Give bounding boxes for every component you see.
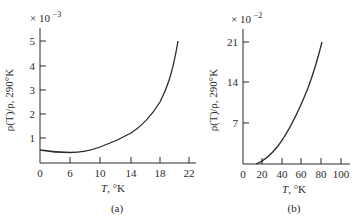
y-tick-label: 21	[227, 36, 238, 48]
x-ticks-b: 0 20 40 60 80 100	[240, 158, 350, 180]
x-tick-label: 18	[155, 167, 167, 179]
caption-a: (a)	[111, 202, 124, 215]
x-ticks-a: 0 6 10 14 18 22	[37, 157, 194, 179]
data-curve-b	[256, 42, 322, 164]
y-multiplier-b: × 10 −2	[231, 11, 262, 25]
data-curve-a	[40, 41, 178, 153]
x-tick-label: 14	[126, 167, 138, 179]
y-ticks-a: 1 2 3 4 5	[30, 35, 47, 144]
chart-panel-a: × 10 −3 1 2 3 4 5 0 6	[3, 10, 196, 215]
chart-panel-b: × 10 −2 7 14 21 0 20 40 60 80	[207, 11, 350, 215]
y-tick-label: 5	[30, 35, 36, 47]
x-axis-label-a: T, °K	[101, 182, 125, 194]
x-tick-label: 0	[37, 167, 43, 179]
y-multiplier-a: × 10 −3	[30, 10, 61, 24]
x-tick-label: 60	[296, 168, 308, 180]
x-tick-label: 40	[277, 168, 289, 180]
y-axis-label-b: ρ(T)/ρ, 290°K	[207, 69, 220, 131]
y-tick-label: 7	[233, 117, 239, 129]
y-tick-label: 1	[30, 132, 36, 144]
x-tick-label: 6	[67, 167, 73, 179]
y-tick-label: 4	[30, 60, 36, 72]
x-tick-label: 0	[240, 168, 246, 180]
y-ticks-b: 7 14 21	[227, 36, 249, 129]
x-tick-label: 22	[184, 167, 195, 179]
x-tick-label: 100	[333, 168, 350, 180]
x-tick-label: 80	[316, 168, 328, 180]
y-tick-label: 2	[30, 108, 36, 120]
x-axis-label-b: T, °K	[282, 183, 306, 195]
figure: × 10 −3 1 2 3 4 5 0 6	[0, 0, 358, 217]
x-tick-label: 10	[95, 167, 107, 179]
y-tick-label: 14	[227, 76, 239, 88]
y-tick-label: 3	[30, 84, 36, 96]
x-tick-label: 20	[257, 168, 269, 180]
caption-b: (b)	[288, 202, 301, 215]
y-axis-label-a: ρ(T)/ρ, 290°K	[3, 69, 16, 131]
